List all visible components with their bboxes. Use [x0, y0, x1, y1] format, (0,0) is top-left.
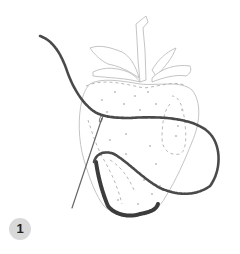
strawberry-leaves [90, 16, 191, 82]
strawberry-embroidery-illustration [0, 0, 240, 254]
needle [72, 115, 103, 208]
step-number-badge: 1 [9, 218, 31, 240]
